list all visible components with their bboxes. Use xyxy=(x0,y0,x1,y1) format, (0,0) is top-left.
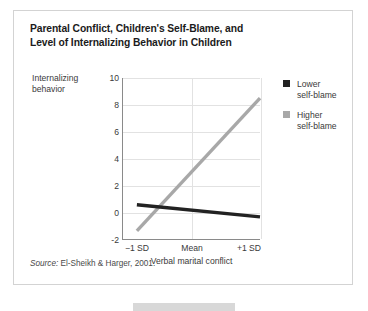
figure-card: Parental Conflict, Children's Self-Blame… xyxy=(13,10,353,285)
ytick-label-0: 0 xyxy=(114,208,119,218)
ytick-label-neg2: -2 xyxy=(111,235,119,245)
figure-title-line-2: Level of Internalizing Behavior in Child… xyxy=(30,36,330,50)
plot-area: 10 8 6 4 2 0 -2 −1 SD Mean +1 SD Verbal … xyxy=(122,78,260,240)
ytick-label-8: 8 xyxy=(114,100,119,110)
legend-label-lower-line-1: Lower xyxy=(297,79,349,90)
series-lines xyxy=(123,78,260,239)
y-axis-title: Internalizing behavior xyxy=(32,73,108,95)
ytick-label-4: 4 xyxy=(114,154,119,164)
legend-label-higher-line-2: self-blame xyxy=(297,121,349,132)
legend-item-higher-self-blame: Higher self-blame xyxy=(283,110,349,132)
y-axis-title-line-2: behavior xyxy=(32,84,108,95)
legend-swatch-lower-icon xyxy=(283,80,290,87)
bottom-edge-artifact xyxy=(133,303,235,311)
gridline-x-plus1 xyxy=(261,78,262,239)
xtick-label-plus1sd: +1 SD xyxy=(237,243,261,253)
legend-label-lower: Lower self-blame xyxy=(297,79,349,100)
legend-label-higher-line-1: Higher xyxy=(297,110,349,121)
figure-title: Parental Conflict, Children's Self-Blame… xyxy=(30,22,330,49)
source-label: Source: xyxy=(30,259,58,268)
legend-swatch-higher-icon xyxy=(283,111,290,118)
source-note: Source: El-Sheikh & Harger, 2001. xyxy=(30,259,155,268)
legend-label-higher: Higher self-blame xyxy=(297,110,349,131)
ytick-label-2: 2 xyxy=(114,181,119,191)
xtick-label-minus1sd: −1 SD xyxy=(125,243,149,253)
ytick-label-6: 6 xyxy=(114,127,119,137)
figure-title-line-1: Parental Conflict, Children's Self-Blame… xyxy=(30,22,330,36)
source-citation: El-Sheikh & Harger, 2001. xyxy=(58,259,155,268)
chart-legend: Lower self-blame Higher self-blame xyxy=(283,79,349,141)
x-axis-title: Verbal marital conflict xyxy=(151,256,233,266)
ytick-label-10: 10 xyxy=(109,73,119,83)
xtick-label-mean: Mean xyxy=(181,243,203,253)
legend-item-lower-self-blame: Lower self-blame xyxy=(283,79,349,101)
legend-label-lower-line-2: self-blame xyxy=(297,90,349,101)
y-axis-title-line-1: Internalizing xyxy=(32,73,108,84)
